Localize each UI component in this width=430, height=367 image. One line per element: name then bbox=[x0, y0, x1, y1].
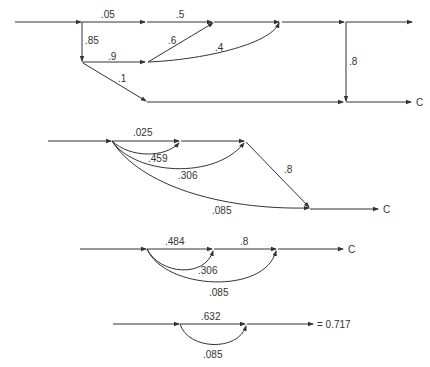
edge-8 bbox=[246, 142, 309, 207]
diagram-original-network: .05 .5 .85 .9 .6 .4 .1 .8 C bbox=[15, 9, 423, 108]
label-085: .085 bbox=[212, 205, 232, 216]
edge-306-arc bbox=[112, 141, 244, 169]
label-8: .8 bbox=[240, 236, 249, 247]
label-306: .306 bbox=[198, 265, 218, 276]
label-306: .306 bbox=[178, 170, 198, 181]
diagram-reduced-network-1: .025 .459 .306 .085 .8 C bbox=[48, 127, 390, 216]
label-1: .1 bbox=[118, 73, 127, 84]
label-8: .8 bbox=[284, 164, 293, 175]
label-4: .4 bbox=[215, 42, 224, 53]
edge-1 bbox=[83, 63, 146, 101]
label-c: C bbox=[348, 244, 355, 255]
label-c: C bbox=[383, 204, 390, 215]
label-632: .632 bbox=[201, 311, 221, 322]
label-459: .459 bbox=[148, 153, 168, 164]
label-85: .85 bbox=[85, 35, 99, 46]
label-8: .8 bbox=[349, 56, 358, 67]
label-025: .025 bbox=[133, 127, 153, 138]
label-484: .484 bbox=[165, 236, 185, 247]
label-5: .5 bbox=[176, 9, 185, 20]
diagram-reduced-network-2: .484 .8 .306 .085 C bbox=[80, 236, 355, 298]
result-value: = 0.717 bbox=[317, 319, 351, 330]
reliability-diagrams: .05 .5 .85 .9 .6 .4 .1 .8 C .025 .459 .3… bbox=[0, 0, 430, 367]
label-c: C bbox=[416, 97, 423, 108]
edge-085-arc bbox=[180, 324, 246, 345]
label-9: .9 bbox=[108, 51, 117, 62]
label-6: .6 bbox=[168, 35, 177, 46]
label-05: .05 bbox=[101, 9, 115, 20]
edge-085-arc bbox=[112, 141, 309, 208]
diagram-reduced-network-3: .632 .085 = 0.717 bbox=[113, 311, 351, 360]
label-085: .085 bbox=[209, 287, 229, 298]
label-085: .085 bbox=[203, 349, 223, 360]
